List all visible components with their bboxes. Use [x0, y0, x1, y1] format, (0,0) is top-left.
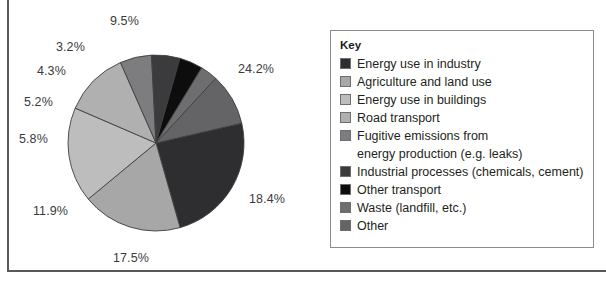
pie-slice-percent-label: 24.2% — [238, 62, 274, 76]
legend-item-label: Fugitive emissions from — [357, 127, 488, 145]
pie-slice-percent-label: 9.5% — [110, 14, 139, 28]
pie-chart-svg — [0, 0, 320, 281]
pie-chart-figure: 9.5%24.2%18.4%17.5%11.9%5.8%5.2%4.3%3.2%… — [0, 0, 606, 281]
pie-chart-area: 9.5%24.2%18.4%17.5%11.9%5.8%5.2%4.3%3.2% — [0, 0, 320, 281]
pie-slice-percent-label: 5.8% — [19, 132, 48, 146]
legend-item-continuation: energy production (e.g. leaks) — [340, 145, 585, 163]
legend-key-box: Key Energy use in industryAgriculture an… — [330, 30, 594, 248]
legend-item-label: Energy use in buildings — [357, 91, 486, 109]
legend-color-swatch-icon — [340, 220, 351, 231]
legend-item-label: Other — [357, 217, 388, 235]
legend-item-label: Other transport — [357, 181, 441, 199]
legend-content: Key Energy use in industryAgriculture an… — [331, 31, 593, 235]
legend-title: Key — [340, 38, 585, 52]
pie-slice-percent-label: 4.3% — [37, 64, 66, 78]
legend-color-swatch-icon — [340, 202, 351, 213]
legend-item: Energy use in buildings — [340, 91, 585, 109]
legend-color-swatch-icon — [340, 94, 351, 105]
legend-item-label: Agriculture and land use — [357, 73, 492, 91]
pie-slice-percent-label: 17.5% — [113, 251, 149, 265]
legend-item: Energy use in industry — [340, 55, 585, 73]
legend-item: Road transport — [340, 109, 585, 127]
legend-item: Agriculture and land use — [340, 73, 585, 91]
legend-color-swatch-icon — [340, 184, 351, 195]
pie-slice-percent-label: 5.2% — [24, 95, 53, 109]
legend-item: Waste (landfill, etc.) — [340, 199, 585, 217]
legend-item: Other transport — [340, 181, 585, 199]
legend-items-list: Energy use in industryAgriculture and la… — [340, 55, 585, 235]
legend-item-label: Industrial processes (chemicals, cement) — [357, 163, 583, 181]
legend-item-label: Road transport — [357, 109, 440, 127]
legend-item-label: Energy use in industry — [357, 55, 481, 73]
legend-color-swatch-icon — [340, 76, 351, 87]
legend-item-label-continued: energy production (e.g. leaks) — [357, 145, 522, 163]
pie-slice-percent-label: 3.2% — [56, 40, 85, 54]
legend-item-label: Waste (landfill, etc.) — [357, 199, 466, 217]
legend-color-swatch-icon — [340, 166, 351, 177]
legend-item: Fugitive emissions from — [340, 127, 585, 145]
legend-item: Other — [340, 217, 585, 235]
legend-item: Industrial processes (chemicals, cement) — [340, 163, 585, 181]
legend-color-swatch-icon — [340, 130, 351, 141]
pie-slice-percent-label: 18.4% — [249, 192, 285, 206]
pie-slices-group — [68, 55, 244, 231]
legend-color-swatch-icon — [340, 58, 351, 69]
legend-color-swatch-icon — [340, 112, 351, 123]
pie-slice-percent-label: 11.9% — [33, 204, 68, 218]
